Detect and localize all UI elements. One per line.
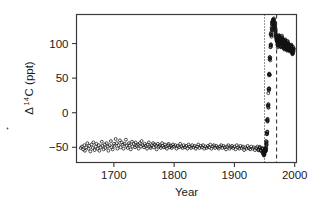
chart-figure: 1700180019002000 −50050100 Year Δ14C (pp…	[0, 0, 316, 208]
y-tick-label: 100	[49, 38, 68, 50]
x-tick-label: 1800	[161, 169, 187, 181]
x-tick-label: 2000	[282, 169, 308, 181]
y-tick-label: 0	[62, 107, 68, 119]
y-axis-title-delta: Δ	[23, 107, 35, 115]
x-tick-label: 1900	[222, 169, 248, 181]
y-tick-label: 50	[56, 72, 69, 84]
x-axis-title: Year	[175, 186, 198, 198]
delta14c-scatter-plot: 1700180019002000 −50050100 Year Δ14C (pp…	[0, 0, 316, 208]
scan-artifact-dot	[7, 128, 9, 130]
y-axis-title-superscript: 14	[22, 97, 31, 105]
y-tick-label: −50	[49, 141, 69, 153]
x-tick-label: 1700	[101, 169, 127, 181]
y-axis-title-element: C (ppt)	[23, 61, 35, 96]
